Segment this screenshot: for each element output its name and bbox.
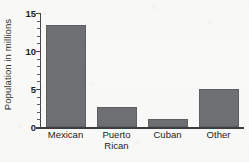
bar [46, 25, 86, 127]
x-category-label-line: Cuban [142, 130, 193, 141]
y-tick-major [36, 127, 41, 128]
x-category-label-line: Puerto [91, 130, 142, 141]
plot-area [40, 13, 244, 127]
x-axis-category-labels: MexicanPuertoRicanCubanOther [40, 130, 244, 162]
x-category-label: PuertoRican [91, 130, 142, 151]
x-category-label-line: Mexican [40, 130, 91, 141]
y-tick-label: 10 [16, 46, 36, 57]
bar [199, 89, 239, 127]
y-axis-tick-labels: 051015 [14, 0, 36, 162]
bar [97, 107, 137, 127]
bar-series [40, 13, 244, 127]
x-category-label: Cuban [142, 130, 193, 141]
y-tick-label: 0 [16, 122, 36, 133]
y-axis-title-text: Population in millions [3, 19, 14, 110]
bar [148, 119, 188, 127]
x-category-label: Mexican [40, 130, 91, 141]
x-category-label-line: Rican [91, 141, 142, 152]
x-category-label-line: Other [193, 130, 244, 141]
x-category-label: Other [193, 130, 244, 141]
y-tick-label: 15 [16, 8, 36, 19]
bar-chart: Population in millions 051015 MexicanPue… [0, 0, 249, 162]
y-tick-label: 5 [16, 84, 36, 95]
